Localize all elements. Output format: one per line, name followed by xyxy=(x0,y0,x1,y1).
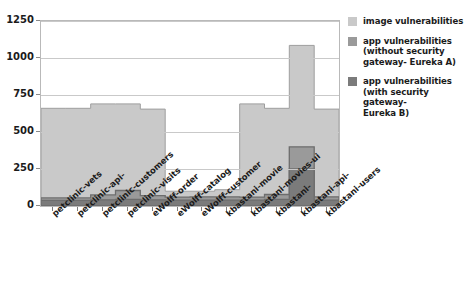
chart-legend: image vulnerabilities app vulnerabilitie… xyxy=(348,16,470,127)
x-tick-mark-0 xyxy=(52,207,53,211)
plot-area xyxy=(40,20,340,207)
y-tick-label-250: 250 xyxy=(0,163,34,173)
legend-swatch-app-vulnerabilities-with-gateway xyxy=(348,77,357,86)
y-tick-label-1250: 1250 xyxy=(0,15,34,25)
y-tick-label-0: 0 xyxy=(0,200,34,210)
gridline-1000 xyxy=(41,58,339,59)
x-tick-mark-6 xyxy=(201,207,202,211)
axis-zero-line xyxy=(41,205,339,206)
legend-line-3c: Eureka B) xyxy=(363,108,409,118)
legend-label-app-vulnerabilities-without-gateway: app vulnerabilities (without security ga… xyxy=(363,36,456,68)
gridline-750 xyxy=(41,95,339,96)
x-tick-mark-2 xyxy=(102,207,103,211)
x-tick-mark-1 xyxy=(77,207,78,211)
y-tick-label-750: 750 xyxy=(0,89,34,99)
legend-line-2a: app vulnerabilities xyxy=(363,36,452,46)
legend-swatch-app-vulnerabilities-without-gateway xyxy=(348,37,357,46)
legend-swatch-image-vulnerabilities xyxy=(348,17,357,26)
legend-label-image-vulnerabilities: image vulnerabilities xyxy=(363,16,463,27)
legend-item-app-vulnerabilities-with-gateway: app vulnerabilities (with security gatew… xyxy=(348,76,470,118)
legend-label-app-vulnerabilities-with-gateway: app vulnerabilities (with security gatew… xyxy=(363,76,470,118)
legend-item-image-vulnerabilities: image vulnerabilities xyxy=(348,16,470,27)
legend-line-3a: app vulnerabilities xyxy=(363,76,452,86)
x-tick-mark-11 xyxy=(326,207,327,211)
x-tick-mark-8 xyxy=(251,207,252,211)
legend-line-1: image vulnerabilities xyxy=(363,16,463,26)
legend-item-app-vulnerabilities-without-gateway: app vulnerabilities (without security ga… xyxy=(348,36,470,68)
y-tick-label-500: 500 xyxy=(0,126,34,136)
x-tick-mark-4 xyxy=(152,207,153,211)
gridline-250 xyxy=(41,169,339,170)
x-tick-mark-10 xyxy=(301,207,302,211)
gridline-500 xyxy=(41,132,339,133)
x-tick-mark-9 xyxy=(276,207,277,211)
y-tick-label-1000: 1000 xyxy=(0,52,34,62)
gridline-1250 xyxy=(41,21,339,22)
legend-line-2b: (without security xyxy=(363,46,445,56)
legend-line-2c: gateway- Eureka A) xyxy=(363,57,456,67)
chart-root: 125010007505002500 petclinic-vetspetclin… xyxy=(0,0,472,293)
series-layer xyxy=(41,21,339,206)
x-tick-mark-5 xyxy=(177,207,178,211)
legend-line-3b: (with security gateway- xyxy=(363,87,429,108)
x-tick-mark-3 xyxy=(127,207,128,211)
x-tick-mark-7 xyxy=(226,207,227,211)
